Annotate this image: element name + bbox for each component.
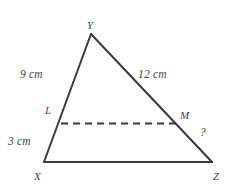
- vertex-label-z: Z: [213, 171, 219, 182]
- measure-label-ym: 12 cm: [138, 69, 167, 81]
- measure-label-mz-unknown: ?: [200, 127, 206, 139]
- geometry-figure: Y 9 cm 12 cm L M 3 cm ? X Z: [0, 0, 233, 192]
- measure-label-lx: 3 cm: [8, 136, 31, 148]
- vertex-label-y: Y: [87, 20, 93, 31]
- point-label-m: M: [180, 110, 189, 121]
- point-label-l: L: [45, 105, 51, 116]
- measure-label-yl: 9 cm: [20, 69, 43, 81]
- segment-yz: [91, 34, 212, 162]
- segment-yx: [44, 34, 91, 162]
- triangle-outline: [44, 34, 212, 162]
- vertex-label-x: X: [34, 171, 41, 182]
- triangle-diagram: [0, 0, 233, 192]
